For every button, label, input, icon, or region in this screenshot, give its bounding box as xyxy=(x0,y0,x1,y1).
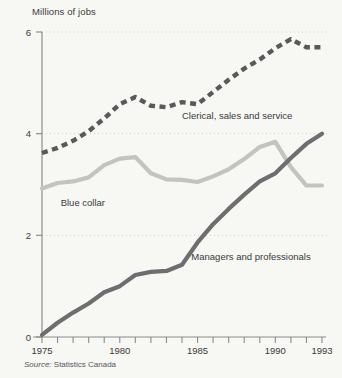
data-series-group xyxy=(42,39,322,335)
series-annotation-2: Managers and professionals xyxy=(191,251,311,262)
series-annotation-1: Blue collar xyxy=(61,197,105,208)
series-line-managers-and-professionals xyxy=(42,134,322,335)
x-tick-label-1980: 1980 xyxy=(109,345,130,356)
line-chart-plot: 0246 19751980198519901993 Clerical, sale… xyxy=(0,0,342,378)
y-tick-label-2: 2 xyxy=(26,230,31,241)
y-tick-label-6: 6 xyxy=(26,27,31,38)
series-annotations-group: Clerical, sales and serviceBlue collarMa… xyxy=(61,110,311,261)
source-note: Source: Statistics Canada xyxy=(24,360,116,369)
y-tick-label-0: 0 xyxy=(26,332,31,343)
x-tick-label-1975: 1975 xyxy=(31,345,52,356)
chart-figure: Millions of jobs 0246 197519801985199019… xyxy=(0,0,342,378)
x-tick-labels-group: 19751980198519901993 xyxy=(31,345,332,356)
y-tick-label-4: 4 xyxy=(26,128,31,139)
series-line-blue-collar xyxy=(42,142,322,189)
y-tick-labels-group: 0246 xyxy=(26,27,31,343)
series-line-clerical-sales-and-service xyxy=(42,39,322,153)
source-prefix: Source: xyxy=(24,360,52,369)
x-tick-label-1993: 1993 xyxy=(311,345,332,356)
x-tick-label-1985: 1985 xyxy=(187,345,208,356)
source-text: Statistics Canada xyxy=(52,360,116,369)
axes-group xyxy=(33,32,326,337)
series-annotation-0: Clerical, sales and service xyxy=(182,110,292,121)
x-tick-label-1990: 1990 xyxy=(265,345,286,356)
y-axis-title: Millions of jobs xyxy=(32,6,96,17)
x-ticks-group xyxy=(42,337,322,343)
